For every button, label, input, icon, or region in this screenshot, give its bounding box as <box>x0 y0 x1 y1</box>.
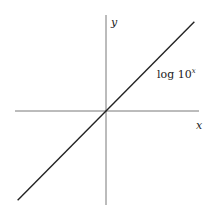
x-axis-label: x <box>196 119 203 132</box>
series-label-exponent: x <box>192 67 196 75</box>
series-label: log 10x <box>157 67 196 81</box>
y-axis-label: y <box>110 16 118 29</box>
chart: x y log 10x <box>0 0 212 214</box>
series-label-base: log 10 <box>157 68 192 81</box>
